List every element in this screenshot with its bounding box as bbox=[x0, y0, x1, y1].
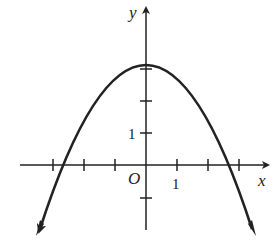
x-tick-label-1: 1 bbox=[172, 176, 180, 192]
y-tick-label-1: 1 bbox=[128, 126, 136, 142]
y-axis-label: y bbox=[127, 3, 137, 22]
x-axis-label: x bbox=[257, 171, 266, 190]
parabola-chart: y x O 1 1 bbox=[0, 0, 279, 247]
origin-label: O bbox=[128, 169, 140, 188]
